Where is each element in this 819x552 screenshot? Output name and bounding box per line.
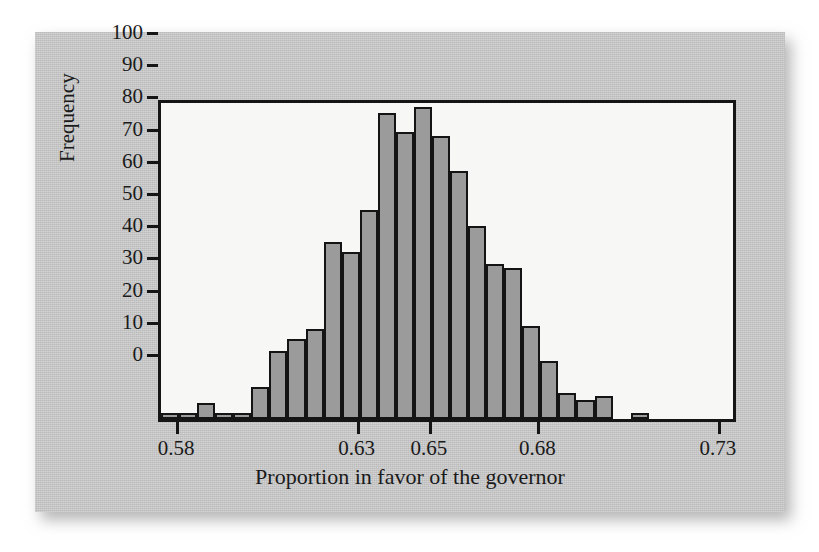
histogram-bar (306, 329, 324, 419)
y-axis-tick (147, 290, 158, 293)
x-axis-tick (176, 422, 179, 434)
histogram-bar (324, 242, 342, 419)
histogram-bar (360, 210, 378, 419)
histogram-bar (522, 326, 540, 419)
histogram-bar (540, 361, 558, 419)
histogram-bar (595, 396, 613, 419)
histogram-bar (215, 413, 233, 419)
y-axis-tick (147, 32, 158, 35)
histogram-bars (161, 103, 733, 419)
y-axis-tick (147, 161, 158, 164)
x-axis-tick-label: 0.73 (700, 436, 737, 461)
histogram-bar (378, 113, 396, 419)
x-axis-tick (429, 422, 432, 434)
y-axis-tick (147, 193, 158, 196)
y-axis-tick-label: 0 (133, 344, 144, 365)
histogram-bar (269, 351, 287, 419)
y-axis-tick-label: 50 (122, 183, 143, 204)
histogram-bar (450, 171, 468, 419)
y-axis-tick-label: 40 (122, 215, 143, 236)
x-axis-tick-label: 0.68 (519, 436, 556, 461)
y-axis-tick (147, 322, 158, 325)
histogram-bar (486, 264, 504, 419)
figure-panel: Frequency 0102030405060708090100 0.580.6… (35, 32, 785, 512)
y-axis-tick-label: 20 (122, 279, 143, 300)
histogram-bar (396, 132, 414, 419)
histogram-bar (197, 403, 215, 419)
histogram-bar (251, 387, 269, 419)
y-axis-tick-label: 100 (112, 22, 144, 43)
y-axis-tick-label: 70 (122, 118, 143, 139)
histogram-bar (179, 413, 197, 419)
histogram-bar (342, 252, 360, 419)
x-axis-label: Proportion in favor of the governor (35, 464, 785, 490)
y-axis-tick-label: 10 (122, 311, 143, 332)
y-axis-tick (147, 257, 158, 260)
y-axis-tick-label: 30 (122, 247, 143, 268)
histogram-bar (287, 339, 305, 420)
y-axis: 0102030405060708090100 (35, 32, 158, 354)
y-axis-tick (147, 129, 158, 132)
y-axis-tick (147, 225, 158, 228)
x-axis-tick (357, 422, 360, 434)
x-axis-tick-label: 0.63 (338, 436, 375, 461)
y-axis-tick (147, 354, 158, 357)
histogram-bar (558, 393, 576, 419)
x-axis-tick (537, 422, 540, 434)
histogram-bar (414, 107, 432, 419)
y-axis-tick-label: 60 (122, 150, 143, 171)
histogram-bar (631, 413, 649, 419)
histogram-bar (576, 400, 594, 419)
histogram-bar (468, 226, 486, 419)
y-axis-tick-label: 90 (122, 54, 143, 75)
plot-area (158, 100, 736, 422)
y-axis-tick (147, 96, 158, 99)
histogram-bar (233, 413, 251, 419)
histogram-bar (504, 268, 522, 419)
y-axis-tick (147, 64, 158, 67)
y-axis-tick-label: 80 (122, 86, 143, 107)
histogram-bar (432, 136, 450, 419)
x-axis-tick-label: 0.58 (158, 436, 195, 461)
x-axis-tick-label: 0.65 (411, 436, 448, 461)
x-axis-tick (718, 422, 721, 434)
histogram-bar (161, 413, 179, 419)
